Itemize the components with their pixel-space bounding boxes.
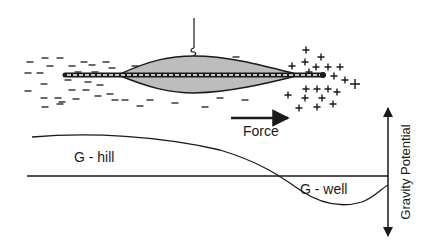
positive-charges: [285, 47, 361, 112]
positive-charge-icon: [331, 73, 338, 80]
positive-charge-icon: [319, 95, 326, 102]
positive-charge-icon: [337, 64, 344, 71]
positive-charge-icon: [289, 63, 296, 70]
gravity-potential-diagram: Force G - hill G - well Gravity Potentia…: [0, 0, 435, 250]
positive-charge-icon: [314, 104, 321, 111]
positive-charge-icon: [296, 105, 303, 112]
g-well-label: G - well: [300, 181, 347, 197]
positive-charge-icon: [350, 79, 360, 89]
positive-charge-icon: [314, 86, 321, 93]
positive-charge-icon: [334, 89, 341, 96]
positive-charge-icon: [330, 101, 337, 108]
force-label: Force: [243, 123, 279, 139]
gravity-potential-axis-label: Gravity Potential: [398, 124, 413, 219]
positive-charge-icon: [285, 92, 292, 99]
positive-charge-icon: [325, 64, 332, 71]
g-hill-label: G - hill: [74, 149, 114, 165]
hanger-hook-icon: [191, 48, 196, 56]
positive-charge-icon: [303, 86, 310, 93]
positive-charge-icon: [302, 95, 309, 102]
positive-charge-icon: [325, 86, 332, 93]
positive-charge-icon: [318, 54, 325, 61]
positive-charge-icon: [342, 77, 349, 84]
rod-tip: [320, 72, 326, 78]
positive-charge-icon: [302, 59, 309, 66]
positive-charge-icon: [303, 47, 310, 54]
positive-charge-icon: [313, 64, 320, 71]
